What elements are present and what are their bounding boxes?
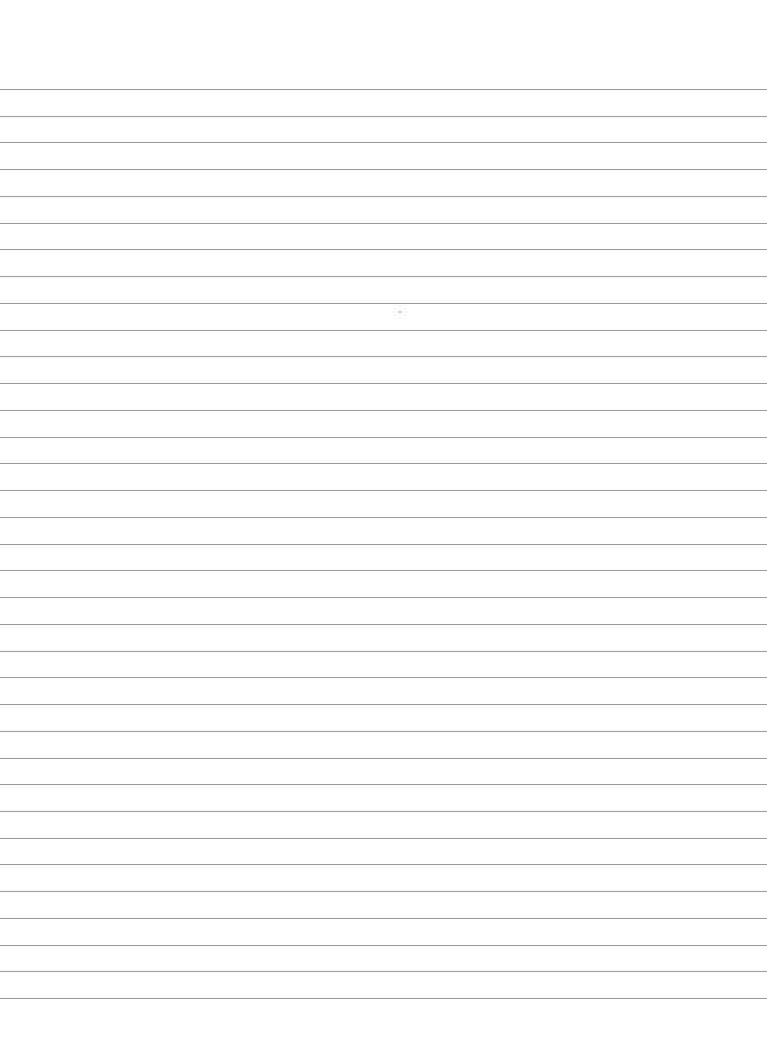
ruled-line xyxy=(0,731,767,732)
ruled-line xyxy=(0,544,767,545)
ruled-line xyxy=(0,998,767,999)
ruled-line xyxy=(0,945,767,946)
ruled-line xyxy=(0,169,767,170)
ruled-line xyxy=(0,971,767,972)
ruled-line xyxy=(0,784,767,785)
ruled-line xyxy=(0,597,767,598)
ruled-line xyxy=(0,223,767,224)
ruled-line xyxy=(0,891,767,892)
ruled-line xyxy=(0,142,767,143)
ruled-line xyxy=(0,383,767,384)
ruled-line xyxy=(0,463,767,464)
ruled-line xyxy=(0,356,767,357)
ruled-line xyxy=(0,677,767,678)
ruled-line xyxy=(0,437,767,438)
ruled-line xyxy=(0,276,767,277)
ruled-line xyxy=(0,249,767,250)
ruled-line xyxy=(0,864,767,865)
ruled-line xyxy=(0,330,767,331)
ruled-line xyxy=(0,918,767,919)
ruled-line xyxy=(0,490,767,491)
ruled-line xyxy=(0,624,767,625)
ruled-line xyxy=(0,303,767,304)
ruled-line xyxy=(0,116,767,117)
ruled-line xyxy=(0,704,767,705)
ruled-line xyxy=(0,651,767,652)
ruled-line xyxy=(0,838,767,839)
ruled-line xyxy=(0,196,767,197)
paper-speck xyxy=(399,311,401,313)
ruled-line xyxy=(0,758,767,759)
ruled-line xyxy=(0,410,767,411)
ruled-line xyxy=(0,517,767,518)
ruled-line xyxy=(0,570,767,571)
ruled-line xyxy=(0,89,767,90)
ruled-line xyxy=(0,811,767,812)
